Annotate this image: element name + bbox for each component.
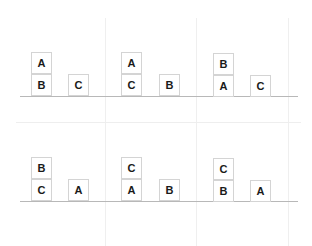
block: C bbox=[121, 74, 142, 96]
block: B bbox=[213, 180, 234, 202]
block: C bbox=[121, 157, 142, 179]
block: C bbox=[213, 158, 234, 180]
grid-line-vertical-3 bbox=[288, 18, 289, 246]
block: C bbox=[250, 75, 271, 97]
block: A bbox=[121, 179, 142, 201]
block: C bbox=[68, 74, 89, 96]
block: A bbox=[250, 180, 271, 202]
row-divider bbox=[16, 122, 301, 123]
block: B bbox=[31, 157, 52, 179]
block: B bbox=[159, 179, 180, 201]
block: A bbox=[31, 52, 52, 74]
block: A bbox=[121, 52, 142, 74]
block: A bbox=[68, 179, 89, 201]
block: A bbox=[213, 75, 234, 97]
grid-line-vertical-2 bbox=[196, 18, 197, 246]
block: B bbox=[213, 53, 234, 75]
block: B bbox=[31, 74, 52, 96]
block: C bbox=[31, 179, 52, 201]
block: B bbox=[159, 74, 180, 96]
grid-line-vertical-1 bbox=[105, 18, 106, 246]
